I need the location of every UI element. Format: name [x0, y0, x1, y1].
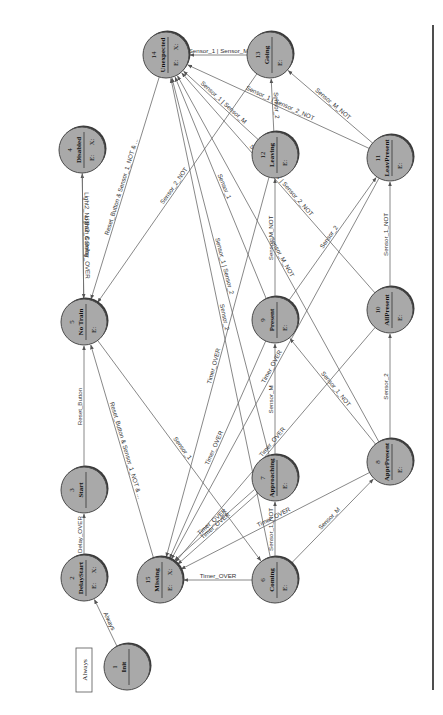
transition-label: Sensor_2_NOT	[158, 166, 188, 205]
state-number: 12	[259, 151, 267, 159]
state-name: LeavPresent	[383, 139, 391, 177]
state-action-mark: X:	[90, 566, 98, 573]
state-name: Missing	[153, 568, 161, 592]
state-node-going[interactable]: 13GoingE:	[247, 31, 295, 79]
state-node-init[interactable]: 1Init	[104, 643, 152, 691]
state-name: DelayStart	[77, 561, 85, 594]
state-node-missing[interactable]: 15MissingE:X:	[137, 556, 185, 604]
state-action-mark: E:	[281, 585, 289, 591]
transition-12-to-13	[271, 79, 274, 132]
state-node-delaystart[interactable]: 2DelayStartE:X:	[61, 554, 109, 602]
state-node-disabled[interactable]: 4DisabledE:X:	[59, 126, 107, 174]
state-number: 9	[259, 318, 267, 322]
state-number: 15	[144, 576, 152, 584]
transition-7-to-14	[172, 78, 269, 455]
state-name: Start	[77, 482, 85, 498]
state-name: Disabled	[75, 137, 83, 163]
state-action-mark: E:	[396, 315, 404, 321]
transition-label: Sensor_1_NOT	[320, 370, 353, 408]
state-node-start[interactable]: 3Start	[61, 466, 109, 514]
transition-label: Light2_NoTrain & Delay_OVER	[83, 192, 91, 279]
state-node-coming[interactable]: 6ComingE:	[252, 556, 300, 604]
state-number: 10	[374, 306, 382, 314]
state-number: 8	[374, 460, 382, 464]
state-number: 11	[374, 154, 382, 161]
transition-label: Timer_OVER	[200, 572, 237, 579]
transition-11-to-13	[288, 71, 372, 143]
state-action-mark: E:	[276, 60, 284, 66]
state-action-mark: E:	[90, 583, 98, 589]
state-name: ApprPresent	[383, 442, 391, 481]
transition-label: Sensor_1	[217, 173, 234, 201]
always-legend-box: Always	[76, 648, 92, 692]
state-number: 3	[68, 488, 76, 492]
transition-label: Sensor_2	[318, 224, 339, 250]
state-node-leavpresent[interactable]: 11LeavPresentE:	[367, 134, 415, 182]
state-action-mark: X:	[88, 138, 96, 145]
state-number: 2	[68, 576, 76, 580]
transition-label: Sensor_1 | Sensor_2	[214, 237, 235, 295]
transition-label: Timer_OVER	[257, 425, 286, 458]
state-action-mark: E:	[172, 60, 180, 66]
transition-label: Sensor_1	[172, 435, 194, 461]
state-number: 13	[254, 51, 262, 59]
state-node-leaving[interactable]: 12LeavingE:	[252, 131, 300, 179]
state-diagram: AlwaysDelay_OVERReset_ButtonReset_Button…	[0, 0, 443, 715]
transition-label: Sensor_2	[382, 373, 389, 400]
transition-label: Delay_OVER	[76, 516, 83, 553]
state-node-no-train[interactable]: 5No TrainE:	[61, 298, 109, 346]
state-action-mark: E:	[281, 483, 289, 489]
transition-label: Reset_Button	[76, 387, 83, 425]
transition-12-to-14	[184, 71, 258, 139]
state-number: 5	[68, 320, 76, 324]
transition-label: Sensor_1_NOT	[382, 213, 389, 256]
transition-label: Sensor_M	[317, 506, 342, 531]
transition-12-to-15	[166, 177, 269, 557]
transition-7-to-15	[178, 493, 258, 564]
state-name: Leaving	[268, 142, 276, 167]
state-action-mark: X:	[172, 43, 180, 50]
state-name: Approaching	[268, 458, 276, 498]
state-action-mark: E:	[281, 325, 289, 331]
transition-15-to-5	[91, 345, 154, 558]
state-number: 7	[259, 476, 267, 480]
transition-label: Sensor_M_NOT	[314, 86, 353, 121]
transition-8-to-9	[290, 339, 375, 444]
state-number: 4	[66, 148, 74, 152]
transition-label: Sensor_1 | Sensor_M	[189, 47, 249, 54]
transition-label: Timer_OVER	[259, 348, 283, 384]
state-node-approaching[interactable]: 7ApproachingE:	[252, 454, 300, 502]
state-name: Going	[263, 45, 271, 64]
state-name: AllPresent	[383, 294, 391, 326]
transition-label: Timer_OVER	[205, 347, 221, 385]
transition-14-to-5	[91, 77, 159, 299]
state-name: Init	[120, 661, 128, 673]
state-name: Present	[268, 308, 276, 331]
state-action-mark: E:	[90, 327, 98, 333]
state-node-apprpresent[interactable]: 8ApprPresentE:	[367, 438, 415, 486]
transition-label: Reset_Button & Sensor_1_NOT & ...	[109, 401, 144, 500]
state-number: 1	[111, 665, 119, 669]
state-action-mark: E:	[166, 585, 174, 591]
state-action-mark: E:	[281, 160, 289, 166]
state-action-mark: E:	[88, 155, 96, 161]
state-number: 14	[150, 51, 158, 59]
transitions-layer	[82, 55, 390, 646]
transition-labels-layer: AlwaysDelay_OVERReset_ButtonReset_Button…	[76, 47, 389, 631]
state-name: No Train	[77, 309, 85, 336]
state-action-mark: X:	[166, 568, 174, 575]
always-legend-label: Always	[81, 659, 89, 681]
transition-label: Timer_OVER	[203, 429, 224, 466]
state-name: Unexpected	[159, 37, 167, 72]
state-node-unexpected[interactable]: 14UnexpectedE:X:	[143, 31, 191, 79]
transition-label: Reset_Button & Sensor_1_NOT & ...	[103, 137, 139, 236]
state-number: 6	[259, 578, 267, 582]
state-node-allpresent[interactable]: 10AllPresentE:	[367, 286, 415, 334]
state-name: Coming	[268, 568, 276, 592]
state-node-present[interactable]: 9PresentE:	[252, 296, 300, 344]
transition-9-to-14	[175, 77, 266, 299]
state-action-mark: E:	[396, 467, 404, 473]
state-action-mark: E:	[396, 163, 404, 169]
transition-label: Sensor_M	[267, 385, 274, 413]
